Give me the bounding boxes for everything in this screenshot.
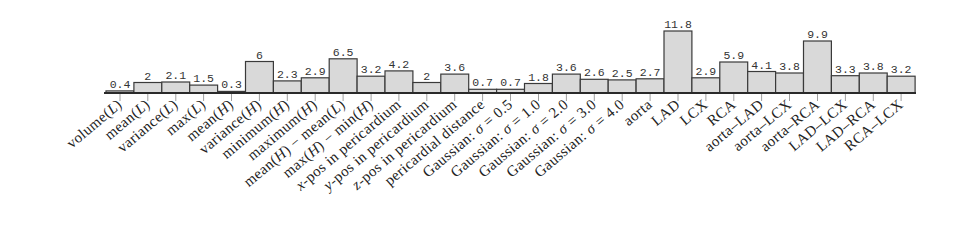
bar-value-label: 4.1: [751, 59, 772, 72]
bar: [720, 62, 748, 93]
bar-value-label: 4.2: [389, 58, 410, 71]
bar-value-label: 2.9: [305, 65, 326, 78]
bar: [804, 41, 832, 93]
bar: [552, 74, 580, 93]
bar: [887, 76, 915, 93]
bar-value-label: 3.8: [779, 60, 800, 73]
bar-value-label: 3.2: [361, 63, 382, 76]
bar-value-label: 2: [144, 70, 151, 83]
bar-value-label: 2.6: [584, 66, 605, 79]
bar: [580, 79, 608, 93]
bar-value-label: 6: [256, 49, 263, 62]
bar-value-label: 3.2: [891, 63, 912, 76]
bar: [441, 74, 469, 93]
bar-value-label: 0.4: [110, 78, 131, 91]
bar: [748, 72, 776, 94]
bar-value-label: 9.9: [807, 28, 828, 41]
bar-value-label: 5.9: [723, 49, 744, 62]
bar-value-label: 2.5: [612, 67, 633, 80]
bar-value-label: 11.8: [664, 18, 692, 31]
bar: [413, 83, 441, 94]
bar-value-label: 0.3: [221, 78, 242, 91]
bar: [134, 83, 162, 94]
bar-value-label: 0.7: [472, 76, 493, 89]
category-labels-group: volume(L)mean(L)variance(L)max(L)mean(H)…: [63, 96, 906, 194]
bar: [636, 79, 664, 93]
bar-value-label: 2.1: [165, 69, 186, 82]
bar: [385, 71, 413, 93]
bar: [162, 82, 190, 93]
bar-value-label: 0.7: [500, 76, 521, 89]
bar: [329, 59, 357, 93]
bar-value-label: 3.8: [863, 60, 884, 73]
bar-value-label: 2.9: [696, 65, 717, 78]
bar: [273, 81, 301, 93]
bar: [301, 78, 329, 93]
bar: [664, 31, 692, 93]
bar: [190, 85, 218, 93]
bar-value-label: 2.7: [640, 66, 661, 79]
bar: [859, 73, 887, 93]
bar: [831, 76, 859, 93]
bar-value-label: 2: [423, 70, 430, 83]
bar-value-label: 6.5: [333, 46, 354, 59]
bar-value-label: 1.5: [193, 72, 214, 85]
bar-chart: 0.422.11.50.362.32.96.53.24.223.60.70.71…: [0, 0, 956, 251]
bar: [692, 78, 720, 93]
bar: [608, 80, 636, 93]
bar-value-label: 3.6: [556, 61, 577, 74]
bar: [357, 76, 385, 93]
bar: [246, 62, 274, 94]
bar-value-label: 3.6: [444, 61, 465, 74]
bar-value-label: 2.3: [277, 68, 298, 81]
bar-value-label: 1.8: [528, 71, 549, 84]
bar: [525, 84, 553, 94]
bar: [776, 73, 804, 93]
bar-value-label: 3.3: [835, 63, 856, 76]
